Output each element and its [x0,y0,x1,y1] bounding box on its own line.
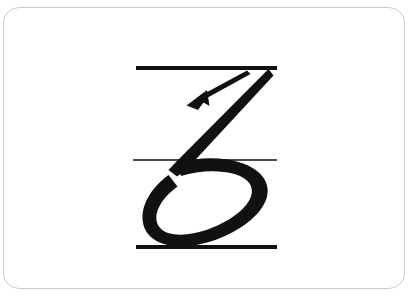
letter-guide-svg [0,0,411,300]
page-canvas: z Cursive letter z handwriting guide [0,0,411,300]
letter-guide-stage: z Cursive letter z handwriting guide [0,0,411,300]
bottom-line [136,245,277,249]
top-line [136,66,277,70]
